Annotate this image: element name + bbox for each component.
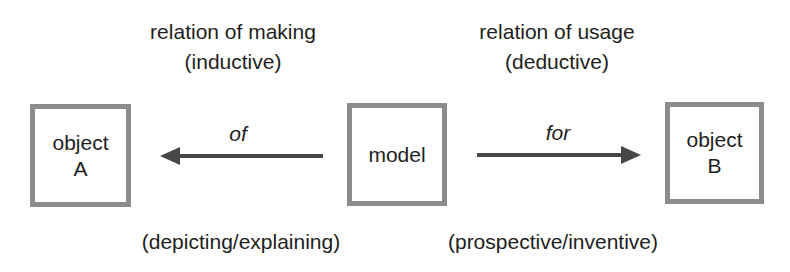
left-bottom-label: (depicting/explaining) (142, 230, 340, 254)
left-arrow-icon (160, 147, 323, 165)
right-arrow-label: for (546, 121, 571, 145)
left-arrow-label: of (229, 122, 247, 146)
right-arrow-icon (477, 146, 641, 164)
relation-arrows (0, 0, 790, 272)
right-bottom-label: (prospective/inventive) (448, 230, 658, 254)
